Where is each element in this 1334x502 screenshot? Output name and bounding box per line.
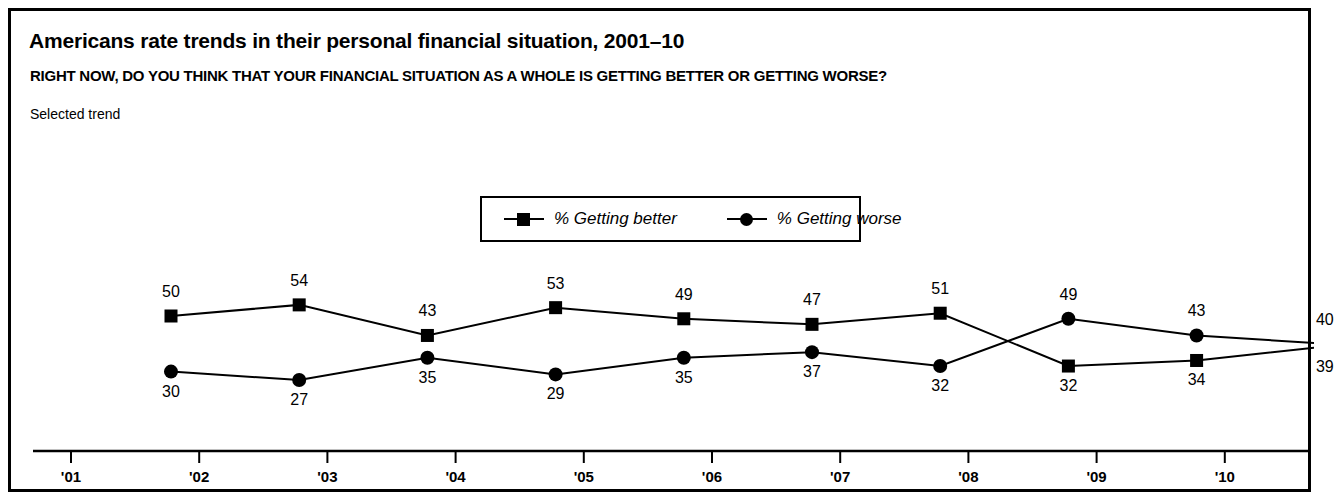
data-point-label: 51 [931, 280, 949, 298]
data-point-label: 43 [418, 302, 436, 320]
data-point-label: 34 [1188, 371, 1206, 389]
data-point-label: 32 [1059, 377, 1077, 395]
data-point-label: 37 [803, 363, 821, 381]
x-axis-tick-label: '05 [574, 468, 594, 485]
data-point-label: 49 [675, 286, 693, 304]
data-point-circle [549, 367, 563, 381]
data-point-circle [933, 359, 947, 373]
data-point-label: 54 [290, 272, 308, 290]
x-axis-tick-label: '07 [830, 468, 850, 485]
data-point-square [421, 329, 434, 342]
data-point-circle [677, 351, 691, 365]
data-point-square [293, 298, 306, 311]
data-point-square [1190, 354, 1203, 367]
data-point-square [806, 318, 819, 331]
data-point-label: 39 [1316, 358, 1334, 376]
x-axis-ticks [71, 451, 1225, 463]
data-point-circle [164, 365, 178, 379]
x-axis-tick-label: '04 [445, 468, 465, 485]
data-point-square [165, 310, 178, 323]
data-point-label: 47 [803, 291, 821, 309]
data-point-square [934, 307, 947, 320]
data-point-circle [420, 351, 434, 365]
data-point-label: 29 [547, 385, 565, 403]
x-axis-tick-label: '06 [702, 468, 722, 485]
x-axis-tick-label: '09 [1086, 468, 1106, 485]
data-point-label: 43 [1188, 302, 1206, 320]
chart-figure: Americans rate trends in their personal … [8, 8, 1311, 492]
x-axis-tick-label: '08 [958, 468, 978, 485]
series-line-getting-worse [171, 319, 1314, 380]
plot-area [11, 11, 1314, 495]
x-axis [33, 451, 1308, 463]
data-point-label: 40 [1316, 311, 1334, 329]
data-point-circle [805, 345, 819, 359]
data-point-circle [1061, 312, 1075, 326]
data-point-label: 49 [1059, 286, 1077, 304]
data-point-label: 32 [931, 377, 949, 395]
data-point-circle [1190, 328, 1204, 342]
data-point-square [1062, 360, 1075, 373]
data-point-label: 50 [162, 283, 180, 301]
data-point-square [677, 312, 690, 325]
series-line-getting-better [171, 305, 1314, 366]
data-point-label: 53 [547, 275, 565, 293]
x-axis-tick-label: '10 [1215, 468, 1235, 485]
series-lines [171, 305, 1314, 380]
data-point-label: 35 [675, 369, 693, 387]
data-point-label: 27 [290, 391, 308, 409]
data-point-square [549, 301, 562, 314]
x-axis-tick-label: '02 [189, 468, 209, 485]
x-axis-tick-label: '01 [61, 468, 81, 485]
data-point-circle [292, 373, 306, 387]
data-point-label: 35 [418, 369, 436, 387]
x-axis-tick-label: '03 [317, 468, 337, 485]
data-point-label: 30 [162, 383, 180, 401]
